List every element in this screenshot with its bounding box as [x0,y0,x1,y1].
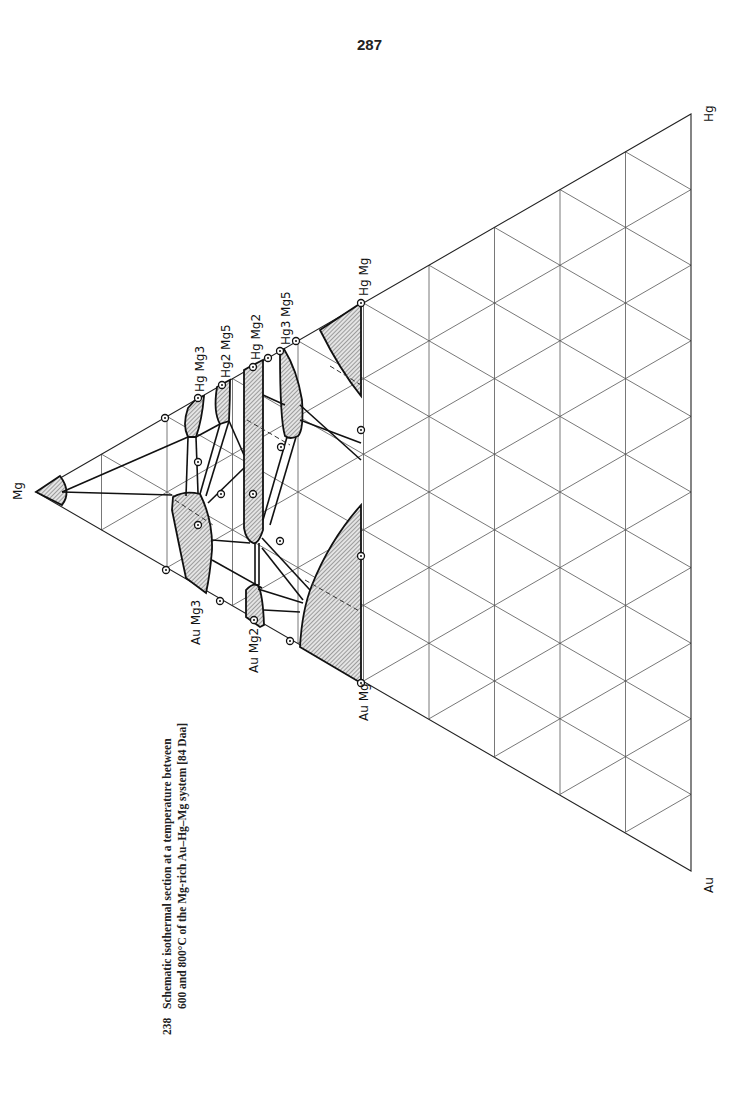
marker-aumg2 [251,617,258,624]
marker-inner1 [195,522,202,529]
figure-number: 238 [160,1009,175,1035]
aumg-region [300,505,361,683]
marker-inner4 [250,491,257,498]
marker-aumg3 [217,598,224,605]
label-hgmg2: Hg Mg2 [249,314,263,360]
marker-hgmg [358,300,365,307]
label-hg3mg5: Hg3 Mg5 [279,291,293,345]
marker-hgmg2 [250,364,257,371]
hgmg-region [320,303,361,396]
caption-line-1: 238Schematic isothermal section at a tem… [160,723,175,1035]
marker-inner8 [358,553,365,560]
label-au-corner: Au [702,877,716,893]
label-hg-corner: Hg [702,105,716,122]
marker-inner3 [218,491,225,498]
hg3mg5-region [280,349,303,438]
figure-caption: 238Schematic isothermal section at a tem… [160,723,190,1035]
marker-inner6 [278,444,285,451]
label-aumg2: Au Mg2 [247,628,261,673]
marker-hgmg3 [195,395,202,402]
marker-inner7 [358,427,365,434]
aumg3-region [172,493,212,593]
ternary-phase-diagram: Mg Hg Au Hg Mg Hg3 Mg5 Hg Mg2 Hg2 Mg5 Hg… [0,0,752,1103]
caption-line-2: 600 and 800°C of the Mg-rich Au–Hg–Mg sy… [175,723,190,1035]
marker-bottom-edge [163,567,170,574]
label-aumg: Au Mg [357,683,371,721]
hgmg3-region [185,396,204,437]
label-hgmg3: Hg Mg3 [193,346,207,392]
hghg2-region [244,360,263,543]
label-hgmg: Hg Mg [357,258,371,296]
marker-top-edge [162,415,169,422]
marker-extra1 [293,338,300,345]
marker-extra2 [265,355,272,362]
label-hg2mg5: Hg2 Mg5 [219,324,233,378]
marker-hg3mg5 [277,348,284,355]
marker-hg2mg5 [219,382,226,389]
marker-inner2 [195,459,202,466]
marker-inner5 [277,538,284,545]
label-aumg3: Au Mg3 [189,600,203,645]
label-mg-corner: Mg [11,482,25,500]
marker-edge3 [287,638,294,645]
